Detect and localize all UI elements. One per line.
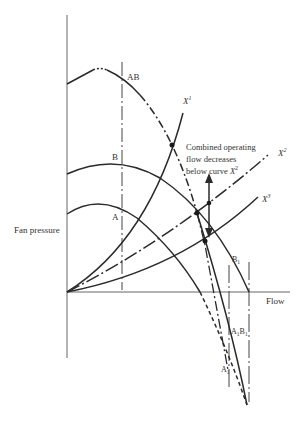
x2-system-curve <box>67 155 268 292</box>
y-axis-label: Fan pressure <box>14 225 60 235</box>
annotation-line-1: Combined operating <box>186 142 256 152</box>
annotation-line-2: flow decreases <box>186 154 236 164</box>
ab-curve-dotted-peak <box>93 69 107 71</box>
label-b1: B1 <box>232 255 240 265</box>
a-curve-dashed <box>200 292 247 405</box>
label-a1b1: A1B1 <box>231 327 248 337</box>
ab-curve-solid-start <box>67 70 93 84</box>
intersection-dot-x2-arrow <box>207 201 212 206</box>
label-x3: X3 <box>261 193 271 204</box>
intersection-dot-x2-b <box>195 211 200 216</box>
label-x1: X1 <box>182 95 192 106</box>
label-a1: A1 <box>221 365 230 375</box>
label-ab: AB <box>127 72 140 82</box>
x-axis-label: Flow <box>266 296 285 306</box>
label-b: B <box>112 152 118 162</box>
annotation-line-3: below curve X2 <box>186 165 238 176</box>
label-x2: X2 <box>277 147 287 158</box>
intersection-dot-x3 <box>203 239 208 244</box>
label-a: A <box>112 212 119 222</box>
intersection-dot-x1-ab <box>170 143 175 148</box>
fan-pressure-diagram: AB B A X1 X2 X3 Combined operating flow … <box>0 0 304 428</box>
x1-system-curve <box>67 113 183 292</box>
